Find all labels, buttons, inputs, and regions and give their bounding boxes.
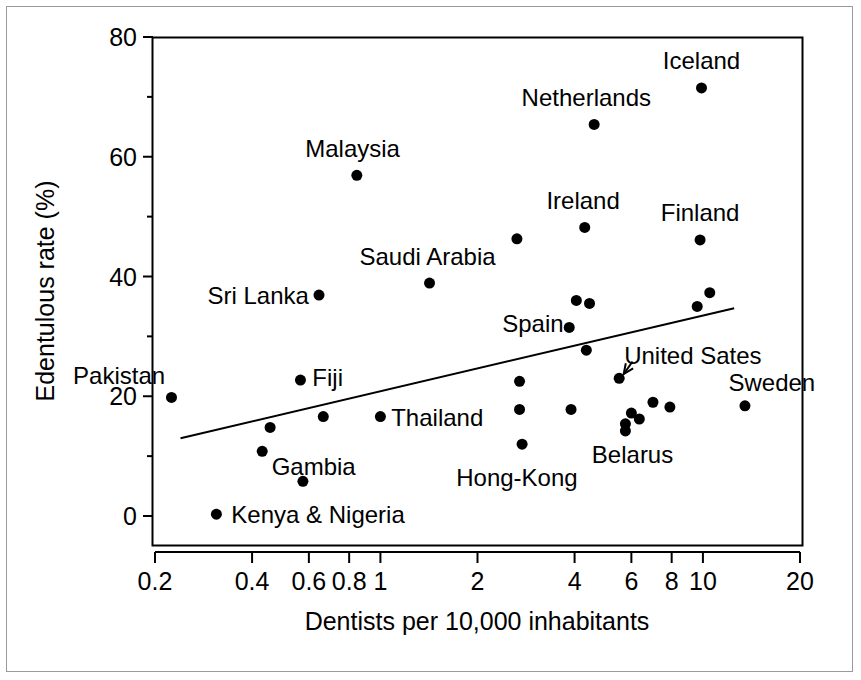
x-axis-ticks bbox=[155, 552, 800, 563]
x-axis-title: Dentists per 10,000 inhabitants bbox=[305, 607, 650, 635]
x-tick-label: 4 bbox=[568, 567, 582, 595]
data-point bbox=[166, 392, 177, 403]
point-label: Hong-Kong bbox=[456, 464, 577, 491]
data-point bbox=[517, 439, 528, 450]
data-point bbox=[579, 222, 590, 233]
point-label: Pakistan bbox=[73, 362, 165, 389]
x-tick-label: 20 bbox=[786, 567, 814, 595]
data-point bbox=[695, 234, 706, 245]
x-tick-label: 6 bbox=[624, 567, 638, 595]
point-label: Thailand bbox=[391, 404, 483, 431]
point-label: Malaysia bbox=[305, 135, 400, 162]
data-point bbox=[620, 425, 631, 436]
data-point bbox=[696, 82, 707, 93]
data-point bbox=[318, 411, 329, 422]
data-point bbox=[375, 411, 386, 422]
data-point bbox=[584, 298, 595, 309]
point-label: Finland bbox=[661, 199, 740, 226]
point-label: Sri Lanka bbox=[207, 282, 309, 309]
data-point bbox=[581, 345, 592, 356]
scatter-plot-figure: 020406080 0.20.40.60.8124681020 Pakistan… bbox=[0, 0, 861, 680]
point-label: Iceland bbox=[663, 47, 740, 74]
point-label: Saudi Arabia bbox=[359, 243, 496, 270]
point-label: Kenya & Nigeria bbox=[231, 501, 405, 528]
data-point bbox=[514, 376, 525, 387]
data-point bbox=[265, 422, 276, 433]
data-point bbox=[692, 301, 703, 312]
y-tick-label: 80 bbox=[109, 23, 137, 51]
data-point bbox=[664, 402, 675, 413]
x-tick-label: 1 bbox=[373, 567, 387, 595]
data-point bbox=[351, 170, 362, 181]
y-tick-label: 40 bbox=[109, 263, 137, 291]
x-tick-label: 0.6 bbox=[291, 567, 326, 595]
x-tick-label: 8 bbox=[665, 567, 679, 595]
data-point bbox=[424, 278, 435, 289]
data-point bbox=[739, 400, 750, 411]
chart-canvas: 020406080 0.20.40.60.8124681020 Pakistan… bbox=[0, 0, 861, 680]
point-labels: PakistanFijiGambiaKenya & NigeriaSri Lan… bbox=[73, 47, 815, 528]
y-tick-label: 60 bbox=[109, 143, 137, 171]
data-point bbox=[566, 404, 577, 415]
data-point bbox=[314, 290, 325, 301]
point-label: United Sates bbox=[624, 342, 761, 369]
data-point bbox=[589, 119, 600, 130]
point-label: Belarus bbox=[592, 441, 673, 468]
data-point bbox=[511, 233, 522, 244]
point-label: Fiji bbox=[312, 364, 343, 391]
data-point bbox=[257, 446, 268, 457]
y-axis-title: Edentulous rate (%) bbox=[31, 181, 59, 402]
data-point bbox=[647, 397, 658, 408]
x-tick-label: 0.4 bbox=[235, 567, 270, 595]
point-label: Ireland bbox=[546, 187, 619, 214]
data-point bbox=[564, 322, 575, 333]
x-tick-label: 2 bbox=[471, 567, 485, 595]
point-label: Netherlands bbox=[522, 84, 651, 111]
x-tick-label: 0.8 bbox=[332, 567, 367, 595]
data-point bbox=[634, 414, 645, 425]
data-point bbox=[211, 509, 222, 520]
point-label: Spain bbox=[502, 310, 563, 337]
data-point bbox=[571, 295, 582, 306]
y-tick-label: 0 bbox=[123, 502, 137, 530]
data-point bbox=[514, 404, 525, 415]
data-point bbox=[704, 287, 715, 298]
data-point bbox=[295, 375, 306, 386]
y-axis-tick-labels: 020406080 bbox=[109, 23, 137, 530]
point-label: Gambia bbox=[272, 453, 357, 480]
point-label: Sweden bbox=[728, 369, 815, 396]
x-tick-label: 0.2 bbox=[138, 567, 173, 595]
x-tick-label: 10 bbox=[689, 567, 717, 595]
x-axis-tick-labels: 0.20.40.60.8124681020 bbox=[138, 567, 814, 595]
